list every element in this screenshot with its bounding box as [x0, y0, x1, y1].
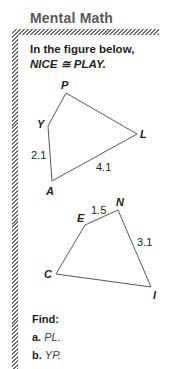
find-item-text: YP.	[45, 349, 61, 361]
find-item-b: b. YP.	[32, 346, 61, 364]
vertex-label-c: C	[44, 268, 53, 280]
measure-ya: 2.1	[31, 149, 46, 161]
vertex-label-y: Y	[37, 118, 46, 130]
find-item-letter: a.	[32, 331, 41, 343]
find-item-letter: b.	[32, 349, 42, 361]
vertex-label-p: P	[61, 79, 69, 91]
vertex-label-l: L	[140, 128, 147, 140]
find-title: Find:	[32, 310, 61, 328]
measure-en: 1.5	[91, 204, 106, 216]
measure-ni: 3.1	[137, 236, 152, 248]
find-section: Find: a. PL. b. YP.	[32, 310, 61, 364]
find-item-text: PL.	[44, 331, 61, 343]
quadrilateral-play: P L A Y 2.1 4.1	[31, 79, 147, 197]
quadrilateral-nice: N I C E 1.5 3.1	[44, 196, 157, 301]
measure-al: 4.1	[96, 161, 111, 173]
geometry-figures: P L A Y 2.1 4.1 N I C E 1.5 3.1	[0, 0, 170, 369]
find-item-a: a. PL.	[32, 328, 61, 346]
vertex-label-e: E	[77, 212, 85, 224]
vertex-label-n: N	[116, 196, 125, 208]
vertex-label-i: I	[153, 289, 157, 301]
vertex-label-a: A	[45, 185, 54, 197]
